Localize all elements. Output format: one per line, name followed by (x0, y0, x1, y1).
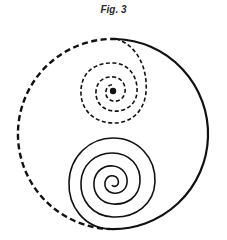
upper-dashed-spiral (81, 39, 146, 123)
yin-yang-spiral-diagram (0, 0, 227, 240)
lower-solid-spiral (69, 138, 155, 229)
outer-circle-solid-arc (110, 39, 208, 229)
upper-spiral-center-dot (110, 88, 116, 94)
